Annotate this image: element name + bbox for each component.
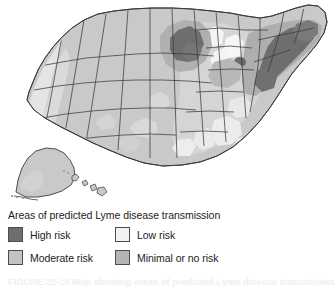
legend-row-1: High risk Low risk <box>8 227 70 242</box>
legend-item-minimal-risk[interactable]: Minimal or no risk <box>115 250 218 265</box>
aleutian-dot-1 <box>11 195 13 197</box>
legend-swatch-minimal-risk <box>115 250 130 265</box>
legend-label-minimal-risk: Minimal or no risk <box>137 252 218 264</box>
hawaii-islet-2 <box>63 170 65 172</box>
legend-row-2: Moderate risk Minimal or no risk <box>8 250 93 265</box>
legend-title: Areas of predicted Lyme disease transmis… <box>8 209 220 221</box>
legend-item-moderate-risk[interactable]: Moderate risk <box>8 250 93 265</box>
map-area <box>0 0 334 206</box>
hawaii-islet-1 <box>67 172 69 174</box>
aleutian-dot-2 <box>16 196 18 198</box>
united-states-risk-map <box>0 0 334 206</box>
legend-swatch-low-risk <box>115 227 130 242</box>
legend-label-low-risk: Low risk <box>137 229 175 241</box>
legend-item-low-risk[interactable]: Low risk <box>115 227 175 242</box>
figure-caption: FIGURE 22-10 Map showing areas of predic… <box>8 276 334 287</box>
legend-label-high-risk: High risk <box>30 229 70 241</box>
legend-item-high-risk[interactable]: High risk <box>8 227 70 242</box>
aleutian-dot-3 <box>22 197 24 199</box>
legend-label-moderate-risk: Moderate risk <box>30 252 93 264</box>
map-legend: Areas of predicted Lyme disease transmis… <box>0 206 334 272</box>
legend-swatch-moderate-risk <box>8 250 23 265</box>
legend-swatch-high-risk <box>8 227 23 242</box>
